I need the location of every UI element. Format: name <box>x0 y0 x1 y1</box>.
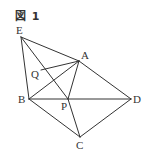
geometry-figure: 図 1 E A Q B P D C <box>0 0 152 152</box>
label-A: A <box>81 49 89 61</box>
label-B: B <box>18 93 25 105</box>
segment-AP <box>68 61 79 99</box>
figure-diagram: E A Q B P D C <box>0 0 152 152</box>
label-D: D <box>133 93 141 105</box>
segment-BC <box>29 99 80 137</box>
label-P: P <box>61 100 67 112</box>
label-E: E <box>16 24 23 36</box>
segment-AD <box>79 61 131 99</box>
label-Q: Q <box>31 68 39 80</box>
label-C: C <box>76 139 83 151</box>
segment-CD <box>80 99 131 137</box>
segment-PC <box>68 99 80 137</box>
